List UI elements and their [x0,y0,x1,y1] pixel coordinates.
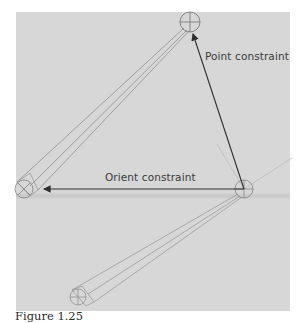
orient-constraint-label: Orient constraint [105,171,196,183]
bottom-joint-icon [70,289,86,305]
guide-line [217,144,244,189]
rig-diagram [0,0,303,323]
left-joint-icon [15,180,33,198]
figure-caption: Figure 1.25 [15,309,83,323]
point-constraint-label: Point constraint [205,50,289,62]
bone-right-bottom [72,194,242,306]
top-joint-icon [180,12,200,32]
